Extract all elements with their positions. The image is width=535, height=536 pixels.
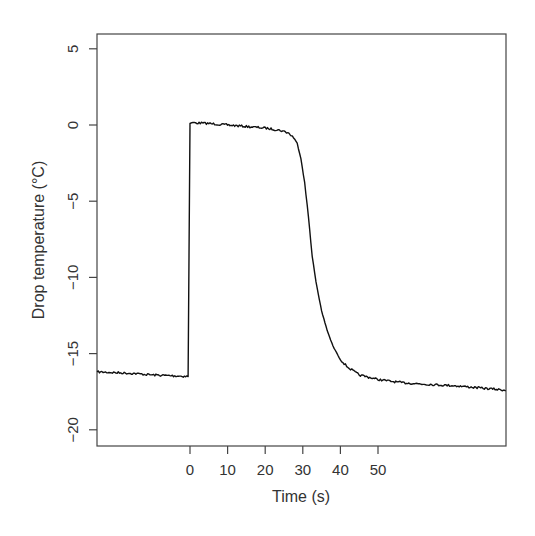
x-axis-title: Time (s) [272,488,330,505]
x-tick-label: 30 [294,461,311,478]
y-axis-title: Drop temperature (°C) [30,161,47,319]
y-tick-label: 5 [64,45,81,53]
x-tick-label: 40 [332,461,349,478]
x-tick-label: 0 [186,461,194,478]
chart: 01020304050 50−5−10−15−20 Time (s) Drop … [0,0,535,536]
y-axis: 50−5−10−15−20 [64,45,97,443]
x-tick-label: 20 [257,461,274,478]
temperature-line [97,122,506,391]
y-tick-label: −15 [64,341,81,366]
y-tick-label: −10 [64,265,81,290]
x-tick-label: 10 [219,461,236,478]
x-axis: 01020304050 [186,446,387,478]
y-tick-label: 0 [64,121,81,129]
y-tick-label: −20 [64,417,81,442]
x-tick-label: 50 [370,461,387,478]
y-tick-label: −5 [64,193,81,210]
